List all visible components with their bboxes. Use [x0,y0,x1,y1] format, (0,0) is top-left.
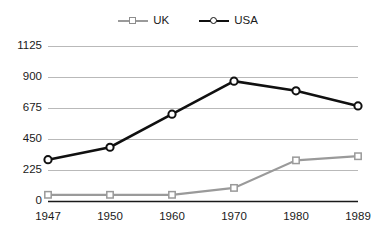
data-point-uk-1950[interactable] [107,192,113,198]
series-line-uk [48,156,358,195]
data-point-usa-1960[interactable] [168,111,175,118]
line-chart: UK USA 02254506759001125 194719501960197… [0,0,376,232]
x-tick-label-1970: 1970 [209,211,259,223]
data-point-uk-1970[interactable] [231,185,237,191]
data-point-usa-1970[interactable] [230,78,237,85]
data-point-uk-1947[interactable] [45,192,51,198]
x-tick-label-1960: 1960 [147,211,197,223]
gridlines [48,47,358,171]
y-tick-label-225: 225 [0,164,42,176]
y-tick-label-450: 450 [0,133,42,145]
data-point-uk-1980[interactable] [293,157,299,163]
data-point-uk-1989[interactable] [355,153,361,159]
x-tick-label-1980: 1980 [271,211,321,223]
series-layer [44,78,361,198]
y-tick-label-1125: 1125 [0,40,42,52]
series-line-usa [48,81,358,160]
data-point-usa-1980[interactable] [292,87,299,94]
y-tick-label-0: 0 [0,195,42,207]
x-tick-label-1950: 1950 [85,211,135,223]
data-point-usa-1950[interactable] [106,144,113,151]
data-point-usa-1989[interactable] [354,102,361,109]
data-point-uk-1960[interactable] [169,192,175,198]
plot-canvas [0,0,376,232]
x-tick-label-1947: 1947 [23,211,73,223]
x-tick-label-1989: 1989 [333,211,376,223]
y-tick-label-675: 675 [0,102,42,114]
plot-area: 02254506759001125 1947195019601970198019… [0,0,376,232]
y-tick-label-900: 900 [0,71,42,83]
data-point-usa-1947[interactable] [44,156,51,163]
